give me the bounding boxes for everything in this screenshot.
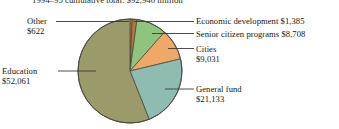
callout-other-name: Other [27,16,47,26]
callout-cities: Cities $9,031 [196,44,220,65]
callout-other-value: $622 [27,26,47,36]
callout-cities-name: Cities [196,44,216,54]
callout-general-fund-value: $21,133 [196,94,242,104]
figure-root: 1994–95 cumulative total: $92,940 millio… [0,0,339,129]
callout-senior-citizen-programs: Senior citizen programs $8,708 [196,29,305,39]
callout-cities-value: $9,031 [196,54,220,64]
callout-economic-development: Economic development $1,385 [196,16,305,26]
callout-general-fund-name: General fund [196,84,242,94]
callout-education: Education $52,061 [2,66,37,87]
callout-other: Other $622 [27,16,47,37]
callout-education-name: Education [2,66,37,76]
callout-general-fund: General fund $21,133 [196,84,242,105]
callout-education-value: $52,061 [2,76,37,86]
